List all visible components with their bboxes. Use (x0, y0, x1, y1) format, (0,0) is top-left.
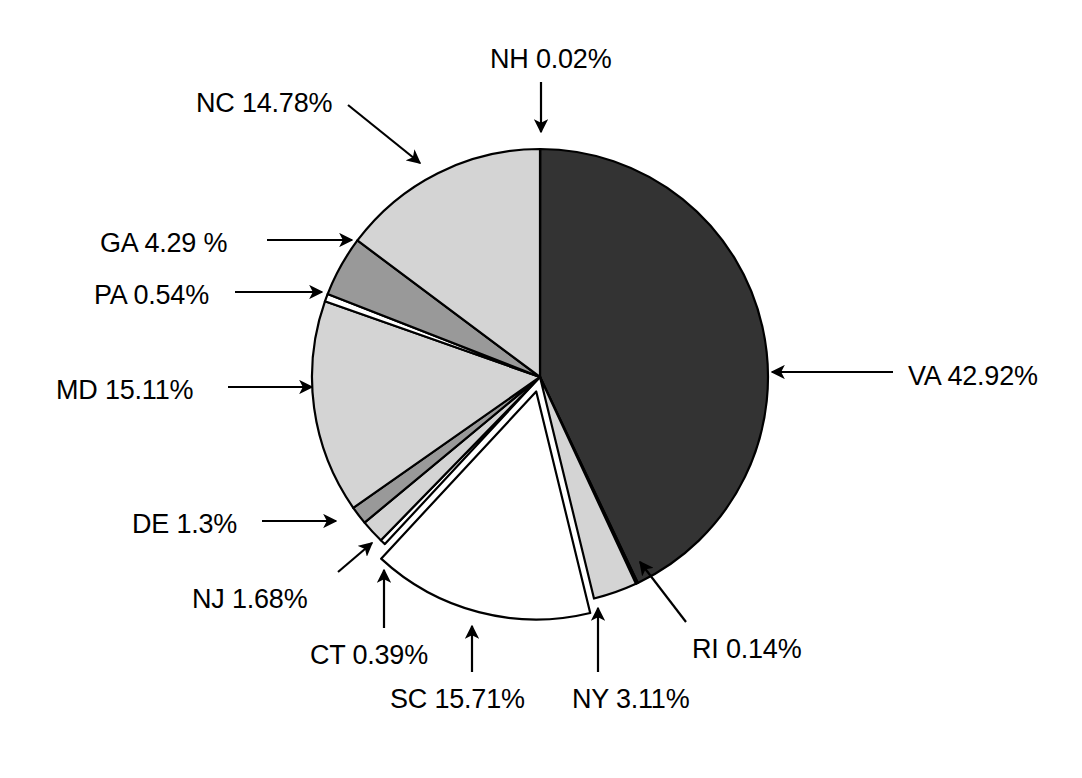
leader-line-nj (338, 543, 372, 572)
pie-label-nh: NH 0.02% (490, 44, 611, 75)
pie-label-md: MD 15.11% (56, 375, 193, 406)
pie-slices-group (312, 149, 768, 620)
pie-label-sc: SC 15.71% (390, 684, 525, 715)
pie-label-pa: PA 0.54% (94, 280, 209, 311)
pie-label-de: DE 1.3% (132, 509, 237, 540)
pie-label-nj: NJ 1.68% (192, 584, 307, 615)
pie-label-ct: CT 0.39% (310, 640, 428, 671)
pie-label-nc: NC 14.78% (196, 88, 332, 119)
pie-chart-page: NH 0.02%VA 42.92%RI 0.14%NY 3.11%SC 15.7… (0, 0, 1082, 778)
leader-line-nc (348, 105, 420, 163)
pie-label-va: VA 42.92% (908, 361, 1038, 392)
leader-line-ri (640, 562, 686, 622)
pie-label-ri: RI 0.14% (692, 634, 801, 665)
pie-label-ny: NY 3.11% (572, 684, 689, 715)
pie-label-ga: GA 4.29 % (100, 228, 227, 259)
